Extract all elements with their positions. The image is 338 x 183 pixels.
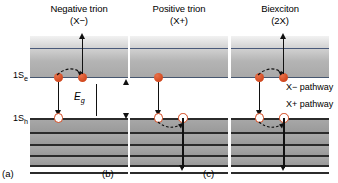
recombination-arrow-c (259, 82, 260, 112)
bandgap-label: Eg (74, 91, 85, 102)
bandgap-arrowhead-up (123, 79, 129, 85)
excitation-arrowhead-c (280, 33, 286, 39)
level-label-1sh: 1Sh (2, 113, 28, 123)
level-label-1se: 1Se (2, 70, 28, 80)
hole-a-1 (54, 113, 64, 123)
conduction-band-edge-c (231, 48, 329, 49)
excitation-arrowhead-a (79, 33, 85, 39)
auger-transfer-arc-b (154, 120, 196, 134)
panel-a-letter: (a) (2, 168, 14, 179)
hole-ejection-arrowhead-b (179, 165, 185, 171)
panel-c-letter: (c) (203, 168, 214, 179)
panel-b-letter: (b) (102, 168, 114, 179)
conduction-band-edge-a (30, 48, 128, 49)
recombination-arrow-a (58, 82, 59, 112)
excitation-arrow-a (82, 38, 83, 74)
conduction-band-edge-b (130, 48, 228, 49)
hole-ejection-arrow-c (283, 118, 284, 168)
pathway-label-positive: X+ pathway (286, 99, 333, 109)
conduction-band-b (130, 36, 228, 78)
panel-c-symbol: (2X) (217, 15, 338, 27)
hole-ejection-arrow-b (182, 118, 183, 168)
recombination-arrow-b (158, 82, 159, 112)
panel-c-title: Biexciton (2X) (217, 3, 338, 26)
hole-ejection-arrowhead-c (280, 165, 286, 171)
valence-band-a (30, 118, 128, 174)
auger-transfer-arc-a (52, 62, 96, 78)
pathway-label-negative: X− pathway (286, 82, 333, 92)
auger-transfer-arc-c-electrons (253, 62, 297, 78)
auger-transfer-arc-c-holes (255, 120, 297, 134)
conduction-band-bottom-b (130, 77, 228, 79)
panel-positive-trion: Positive trion (X+) (130, 0, 228, 183)
excitation-arrow-c (283, 38, 284, 74)
bandgap-arrowhead-down (123, 113, 129, 119)
electron-b-1 (154, 73, 163, 82)
bandgap-gauge-line (96, 84, 97, 116)
